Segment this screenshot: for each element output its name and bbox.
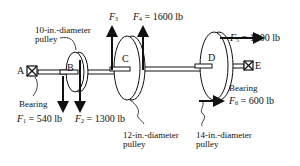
pulley-c-label-line2: pulley xyxy=(123,140,146,149)
pulley-b-label-line2: pulley xyxy=(35,35,58,44)
leader-bearing-a xyxy=(33,77,37,96)
leader-pulley-c xyxy=(130,100,144,124)
bearing-e-label: Bearing xyxy=(229,84,258,93)
node-e-label: E xyxy=(255,61,261,71)
leader-pulley-d xyxy=(201,100,204,126)
force-f1-label: F1 = 540 lb xyxy=(17,114,62,124)
node-b-label: B xyxy=(67,63,74,73)
node-d-label: D xyxy=(208,53,215,63)
bearing-e-icon xyxy=(244,61,253,70)
bearing-a-icon xyxy=(27,66,37,76)
force-f5-label: F5 = 1000 lb xyxy=(230,33,280,43)
shaft-pulley-diagram: A B C D E 10-in.-diameter pulley 12-in.-… xyxy=(0,0,300,166)
node-a-label: A xyxy=(17,66,24,76)
force-f3-label: F3 xyxy=(109,12,118,22)
pulley-d-label-line2: pulley xyxy=(196,140,219,149)
leader-pulley-b xyxy=(60,38,76,51)
force-f2-label: F2 = 1300 lb xyxy=(75,114,125,124)
force-f6-label: F6 = 600 lb xyxy=(229,96,274,106)
bearing-a-label: Bearing xyxy=(19,100,48,109)
force-f4-label: F4 = 1600 lb xyxy=(133,12,183,22)
node-c-label: C xyxy=(122,54,129,64)
